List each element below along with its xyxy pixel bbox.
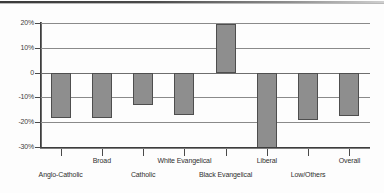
- bar: [174, 73, 194, 115]
- y-axis-tick: [35, 48, 41, 49]
- bar: [257, 73, 277, 149]
- x-axis-line-shadow: [40, 148, 370, 149]
- x-axis-tick: [61, 149, 62, 156]
- y-axis-tick: [35, 23, 41, 24]
- y-axis-tick-label: -30%: [18, 143, 34, 150]
- gridline-10pct: [40, 48, 370, 49]
- gridline-0: [40, 73, 370, 74]
- gridline--20pct: [40, 122, 370, 123]
- bar: [92, 73, 112, 119]
- y-axis-tick-label: 20%: [21, 19, 34, 26]
- bar: [216, 24, 236, 72]
- y-axis-tick-label: -10%: [18, 93, 34, 100]
- y-axis-tick: [35, 147, 41, 148]
- y-axis-tick-label: 10%: [21, 44, 34, 51]
- x-axis-tick: [349, 149, 350, 156]
- x-axis-tick: [184, 149, 185, 156]
- y-axis-tick-label: 0: [30, 69, 34, 76]
- gridline-20pct: [40, 23, 370, 24]
- gridline--10pct: [40, 97, 370, 98]
- y-axis-labels: 20%10%0-10%-20%-30%: [0, 0, 34, 193]
- x-axis-category-label: Low/Others: [291, 171, 326, 178]
- x-axis-category-label: White Evangelical: [157, 157, 211, 164]
- x-axis-category-label: Overall: [339, 157, 360, 164]
- x-axis-tick: [102, 149, 103, 156]
- x-axis-tick: [267, 149, 268, 156]
- bar: [51, 73, 71, 119]
- page-edge-artifact-secondary: [0, 3, 384, 4]
- x-axis-category-label: Liberal: [257, 157, 277, 164]
- y-axis-tick: [35, 122, 41, 123]
- x-axis-category-label: Broad: [93, 157, 111, 164]
- y-axis-tick-label: -20%: [18, 118, 34, 125]
- x-axis-category-label: Black Evangelical: [199, 171, 252, 178]
- x-axis-tick: [143, 149, 144, 156]
- y-axis-tick: [35, 73, 41, 74]
- x-axis-category-label: Anglo-Catholic: [39, 171, 83, 178]
- y-axis-tick: [35, 97, 41, 98]
- bar: [133, 73, 153, 105]
- bar-chart: 20%10%0-10%-20%-30% Anglo-CatholicBroadC…: [0, 0, 384, 193]
- x-axis-tick: [226, 149, 227, 156]
- x-axis-category-label: Catholic: [131, 171, 156, 178]
- plot-area: [40, 23, 370, 147]
- bar: [298, 73, 318, 120]
- bar: [339, 73, 359, 116]
- x-axis-tick: [308, 149, 309, 156]
